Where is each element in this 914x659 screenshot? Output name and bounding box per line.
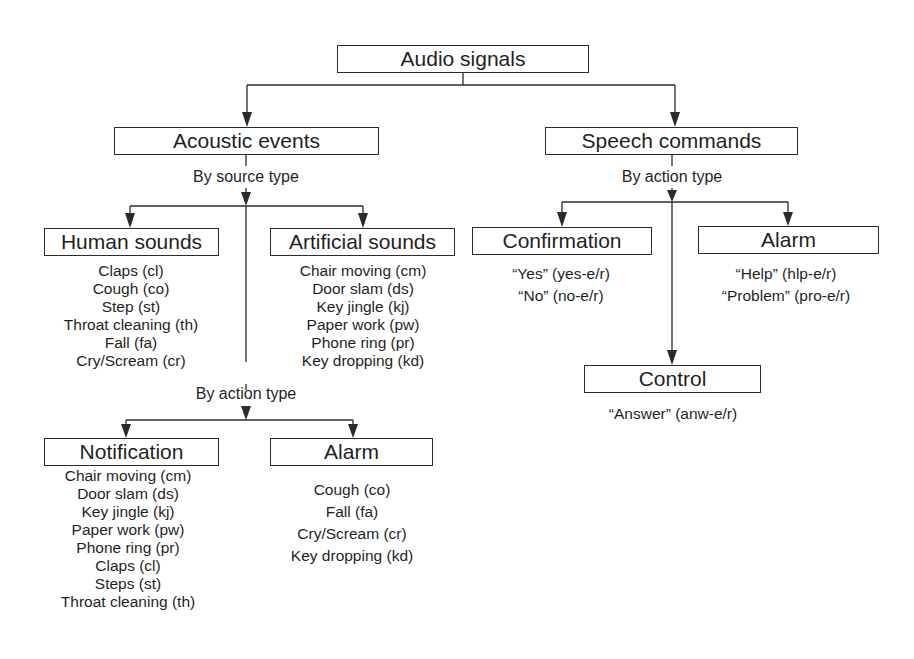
human-sounds-list: Claps (cl) Cough (co) Step (st) Throat c… [64, 262, 198, 370]
list-item: Paper work (pw) [300, 316, 427, 334]
node-artificial-sounds: Artificial sounds [270, 228, 455, 256]
list-item: Cough (co) [291, 479, 413, 501]
list-item: Steps (st) [61, 575, 195, 593]
list-item: Door slam (ds) [300, 280, 427, 298]
list-item: Throat cleaning (th) [64, 316, 198, 334]
list-item: Chair moving (cm) [61, 467, 195, 485]
node-human-sounds: Human sounds [44, 228, 219, 256]
control-list: “Answer” (anw-e/r) [609, 404, 737, 423]
node-speech-commands: Speech commands [545, 127, 798, 155]
speech-alarm-list: “Help” (hlp-e/r) “Problem” (pro-e/r) [722, 263, 850, 307]
notification-list: Chair moving (cm) Door slam (ds) Key jin… [61, 467, 195, 611]
label-speech-by-action-type: By action type [622, 168, 723, 186]
list-item: “Problem” (pro-e/r) [722, 285, 850, 307]
node-notification: Notification [44, 438, 219, 466]
confirmation-list: “Yes” (yes-e/r) “No” (no-e/r) [512, 263, 610, 307]
list-item: Fall (fa) [64, 334, 198, 352]
list-item: Phone ring (pr) [300, 334, 427, 352]
list-item: Claps (cl) [64, 262, 198, 280]
list-item: Claps (cl) [61, 557, 195, 575]
list-item: Door slam (ds) [61, 485, 195, 503]
list-item: Cry/Scream (cr) [291, 523, 413, 545]
list-item: Key dropping (kd) [291, 545, 413, 567]
list-item: Cry/Scream (cr) [64, 352, 198, 370]
list-item: Fall (fa) [291, 501, 413, 523]
list-item: Throat cleaning (th) [61, 593, 195, 611]
list-item: Key jingle (kj) [300, 298, 427, 316]
node-control: Control [584, 365, 761, 393]
list-item: Paper work (pw) [61, 521, 195, 539]
artificial-sounds-list: Chair moving (cm) Door slam (ds) Key jin… [300, 262, 427, 370]
list-item: “Answer” (anw-e/r) [609, 404, 737, 423]
node-speech-alarm: Alarm [698, 226, 879, 254]
list-item: “No” (no-e/r) [512, 285, 610, 307]
node-acoustic-alarm: Alarm [270, 438, 433, 466]
node-audio-signals: Audio signals [337, 45, 589, 73]
node-acoustic-events: Acoustic events [114, 127, 379, 155]
list-item: Phone ring (pr) [61, 539, 195, 557]
list-item: Chair moving (cm) [300, 262, 427, 280]
list-item: Step (st) [64, 298, 198, 316]
list-item: “Help” (hlp-e/r) [722, 263, 850, 285]
list-item: Key jingle (kj) [61, 503, 195, 521]
list-item: Cough (co) [64, 280, 198, 298]
node-confirmation: Confirmation [472, 227, 652, 255]
acoustic-alarm-list: Cough (co) Fall (fa) Cry/Scream (cr) Key… [291, 479, 413, 567]
list-item: Key dropping (kd) [300, 352, 427, 370]
label-acoustic-by-action-type: By action type [196, 385, 297, 403]
list-item: “Yes” (yes-e/r) [512, 263, 610, 285]
label-by-source-type: By source type [193, 168, 299, 186]
